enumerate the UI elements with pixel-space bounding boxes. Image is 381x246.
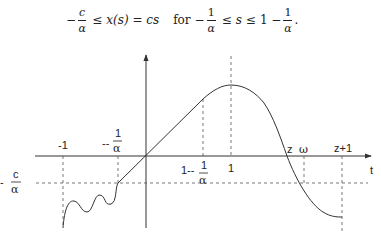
label-one-minus-inv-alpha-prefix: 1--	[181, 164, 195, 176]
label-minus-inv-alpha-den: α	[113, 142, 121, 155]
label-minus-one: -1	[58, 139, 68, 151]
label-one-minus-inv-alpha-den: α	[199, 174, 207, 187]
label-minus-inv-alpha-prefix: --	[102, 137, 110, 149]
label-t-axis: t	[370, 164, 373, 176]
function-plot: -1 -- 1 α 1-- 1 α 1 z ω z+1 t - c α	[0, 0, 381, 246]
label-minus-inv-alpha-num: 1	[115, 127, 121, 139]
label-minus-c-over-alpha-prefix: -	[0, 176, 4, 188]
label-z: z	[287, 143, 293, 155]
label-omega: ω	[299, 143, 308, 156]
label-z-plus-one: z+1	[334, 142, 352, 154]
label-minus-c-over-alpha-num: c	[13, 168, 19, 180]
label-one-minus-inv-alpha-num: 1	[201, 159, 207, 171]
label-minus-c-over-alpha-den: α	[11, 183, 19, 196]
label-one: 1	[228, 162, 234, 174]
